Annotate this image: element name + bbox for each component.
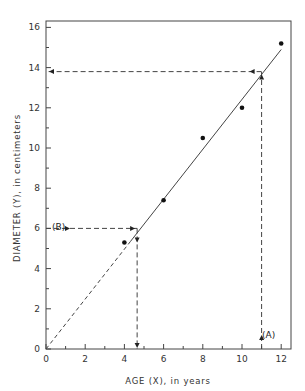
x-tick-label: 4: [122, 354, 128, 364]
x-tick-label: 2: [82, 354, 88, 364]
fitted-line-extrapolated: [46, 242, 130, 349]
x-tick-label: 6: [161, 354, 167, 364]
y-axis-title: DIAMETER (Y), in centimeters: [12, 114, 22, 262]
arrow-right-icon: [130, 226, 135, 231]
arrow-right-icon: [65, 226, 70, 231]
y-axis-ticks: 0246810121416: [29, 22, 51, 354]
data-point: [240, 106, 245, 111]
data-point: [279, 41, 284, 46]
arrow-left-icon: [49, 69, 54, 74]
data-point: [122, 240, 127, 245]
annotation-guides: [46, 69, 264, 349]
y-tick-label: 8: [34, 183, 40, 193]
x-tick-label: 12: [275, 354, 286, 364]
y-tick-label: 2: [34, 304, 40, 314]
x-tick-label: 10: [236, 354, 248, 364]
x-axis-ticks: 024681012: [43, 344, 287, 364]
annotation-b-label: (B): [52, 222, 65, 232]
scatter-chart: 024681012 0246810121416 AGE (X), in year…: [0, 0, 305, 391]
arrow-left-icon: [250, 69, 255, 74]
y-tick-label: 10: [29, 143, 41, 153]
y-tick-label: 0: [34, 344, 40, 354]
arrow-down-icon: [135, 343, 140, 348]
y-tick-label: 4: [34, 264, 40, 274]
y-tick-label: 12: [29, 103, 40, 113]
x-tick-label: 8: [200, 354, 206, 364]
data-point: [201, 136, 206, 141]
x-axis-title: AGE (X), in years: [125, 376, 211, 386]
arrow-down-icon: [135, 237, 140, 242]
y-tick-label: 16: [29, 22, 41, 32]
y-tick-label: 14: [29, 63, 41, 73]
x-tick-label: 0: [43, 354, 49, 364]
y-tick-label: 6: [34, 223, 40, 233]
annotation-a-label: (A): [262, 330, 275, 340]
data-point: [161, 198, 166, 203]
fitted-line-solid: [130, 50, 281, 242]
